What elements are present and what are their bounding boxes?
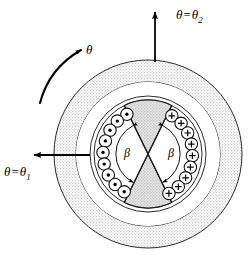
conductor-dot bbox=[118, 186, 130, 198]
theta-one-equals: = bbox=[10, 164, 19, 179]
figure-canvas bbox=[0, 0, 252, 259]
conductor-plus bbox=[185, 138, 197, 150]
conductor-plus bbox=[163, 187, 175, 199]
conductor-plus bbox=[182, 127, 194, 139]
beta-label-left: β bbox=[124, 146, 130, 161]
beta-label-right: β bbox=[168, 146, 174, 161]
theta-two-label: θ=θ2 bbox=[176, 8, 203, 25]
theta-two-equals: = bbox=[182, 7, 191, 22]
conductor-dot bbox=[99, 135, 111, 147]
machine-cross-section-figure: θ=θ2 θ=θ1 θ β β bbox=[0, 0, 252, 259]
rotation-theta-label: θ bbox=[86, 43, 92, 56]
theta-one-subscript: 1 bbox=[26, 172, 31, 182]
conductor-plus bbox=[186, 150, 198, 162]
theta-two-subscript: 2 bbox=[198, 15, 203, 25]
conductor-dot bbox=[97, 146, 109, 158]
theta-one-label: θ=θ1 bbox=[4, 165, 31, 182]
